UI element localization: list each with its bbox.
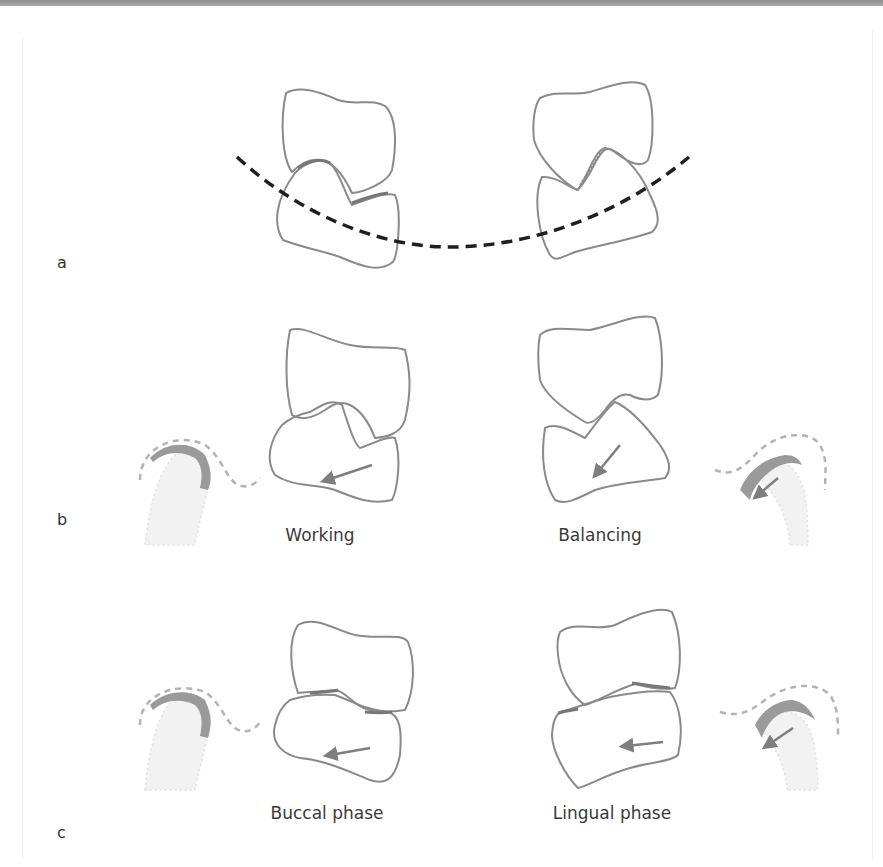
figure-illustration [0, 0, 883, 867]
lower-molar-lingual [552, 691, 681, 788]
curve-of-wilson [237, 157, 689, 247]
panel-label-a: a [57, 253, 67, 272]
lower-molar-buccal [274, 695, 401, 782]
caption-balancing: Balancing [558, 525, 642, 545]
lower-molar-working [270, 402, 399, 502]
contact-mark [365, 712, 392, 713]
contact-mark [558, 709, 578, 713]
caption-working: Working [285, 525, 354, 545]
panel-b-right-condyle [715, 435, 826, 545]
panel-c-right-teeth [552, 610, 681, 788]
panel-b-right-teeth [538, 316, 669, 502]
panel-a-right-teeth [533, 82, 657, 258]
movement-arrow [330, 748, 370, 755]
panel-a-left-teeth [277, 89, 399, 267]
contact-mark [352, 193, 388, 203]
upper-molar-balancing [538, 316, 662, 422]
movement-arrow [327, 465, 372, 480]
lower-molar-left [277, 161, 399, 268]
panel-b-left-teeth [270, 329, 410, 502]
panel-c-left-teeth [274, 622, 413, 782]
panel-c-left-condyle [140, 688, 260, 790]
upper-molar-buccal [291, 622, 413, 712]
panel-label-c: c [57, 823, 66, 842]
condyle-shaft [762, 712, 818, 790]
panel-c-right-condyle [720, 686, 838, 790]
panel-label-b: b [57, 510, 67, 529]
panel-b-left-condyle [140, 440, 260, 545]
movement-arrow [626, 742, 663, 746]
caption-buccal-phase: Buccal phase [271, 803, 384, 823]
lower-molar-balancing [543, 402, 669, 502]
caption-lingual-phase: Lingual phase [553, 803, 671, 823]
upper-molar-right [533, 82, 652, 190]
movement-arrow [597, 445, 620, 473]
contact-mark [310, 690, 338, 693]
occlusion-figure: a b c Working Balancing Buccal phase Lin… [0, 0, 883, 867]
